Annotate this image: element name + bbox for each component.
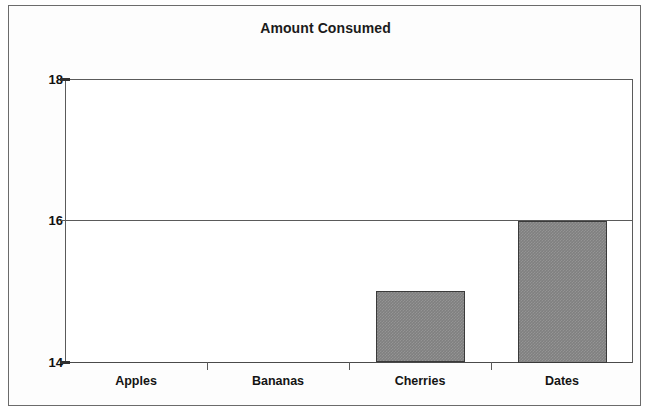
- x-axis-label-cherries: Cherries: [349, 374, 491, 388]
- y-axis-label-18: 18: [23, 72, 63, 87]
- x-axis-label-bananas: Bananas: [207, 374, 349, 388]
- y-axis-label-14: 14: [23, 355, 63, 370]
- y-tick-mark-16: [61, 220, 69, 221]
- chart-frame: Amount Consumed 18 16 14 Apples Bananas …: [8, 5, 641, 406]
- plot-area: [65, 79, 633, 362]
- y-axis-label-16: 16: [23, 213, 63, 228]
- x-tick-mark: [207, 362, 208, 370]
- x-axis-label-dates: Dates: [491, 374, 633, 388]
- x-tick-mark: [491, 362, 492, 370]
- plot-right-border: [632, 79, 633, 363]
- y-tick-mark-18: [60, 78, 70, 81]
- bar-cherries[interactable]: [376, 291, 465, 362]
- y-tick-mark-14: [60, 361, 70, 364]
- x-axis-label-apples: Apples: [65, 374, 207, 388]
- x-tick-mark: [349, 362, 350, 370]
- bar-dates[interactable]: [518, 221, 607, 363]
- chart-title: Amount Consumed: [9, 20, 641, 36]
- gridline-18: [65, 79, 633, 80]
- y-axis-line: [65, 79, 66, 363]
